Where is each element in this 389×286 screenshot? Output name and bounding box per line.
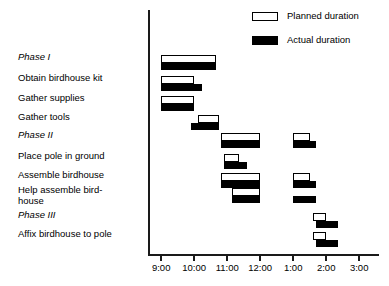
task-label-affix-birdhouse-to-pole: Affix birdhouse to pole [18,228,112,239]
x-tick-3-00 [358,255,360,261]
planned-bar-help-assemble-bird-house-0 [232,188,260,196]
actual-bar-obtain-birdhouse-kit-0 [161,84,202,91]
actual-duration-swatch [252,36,278,45]
x-tick-label-1-00: 1:00 [284,262,303,273]
y-axis-line [148,10,150,255]
x-tick-10-00 [193,255,195,261]
actual-bar-gather-tools-0 [191,123,219,130]
task-label-obtain-birdhouse-kit: Obtain birdhouse kit [18,72,103,83]
task-label-place-pole-in-ground: Place pole in ground [18,150,105,161]
actual-bar-affix-birdhouse-to-pole-0 [316,240,337,247]
task-label-gather-supplies: Gather supplies [18,92,85,103]
actual-bar-gather-supplies-0 [161,104,194,111]
planned-bar-place-pole-in-ground-0 [224,154,239,162]
x-tick-12-00 [259,255,261,261]
legend-label-actual: Actual duration [287,35,350,45]
planned-duration-swatch [252,12,278,21]
x-axis-line [148,254,379,256]
actual-bar-assemble-birdhouse-0 [221,181,261,188]
task-label-help-assemble-bird-house: Help assemble bird- house [18,184,102,206]
planned-bar-phase-ii-0 [221,133,261,141]
actual-bar-phase-ii-0 [221,141,261,148]
legend-label-planned: Planned duration [287,11,359,21]
planned-bar-phase-ii-1 [293,133,310,141]
x-tick-label-10-00: 10:00 [182,262,206,273]
x-tick-11-00 [226,255,228,261]
actual-bar-phase-iii-0 [316,221,337,228]
actual-bar-place-pole-in-ground-0 [224,162,247,169]
legend-item-actual: Actual duration [252,32,359,48]
x-tick-2-00 [325,255,327,261]
x-tick-label-3-00: 3:00 [350,262,369,273]
actual-bar-help-assemble-bird-house-1 [293,196,316,203]
gantt-chart: Planned duration Actual duration 9:0010:… [0,0,389,286]
planned-bar-affix-birdhouse-to-pole-0 [313,232,326,240]
x-tick-1-00 [292,255,294,261]
actual-bar-phase-ii-1 [293,141,316,148]
legend-item-planned: Planned duration [252,8,359,24]
planned-bar-phase-iii-0 [313,213,326,221]
planned-bar-gather-tools-0 [198,115,219,123]
chart-legend: Planned duration Actual duration [252,8,359,56]
task-label-gather-tools: Gather tools [18,111,70,122]
planned-bar-assemble-birdhouse-1 [293,173,310,181]
task-label-assemble-birdhouse: Assemble birdhouse [18,169,104,180]
planned-bar-assemble-birdhouse-0 [221,173,261,181]
planned-bar-phase-i-0 [161,55,215,63]
x-tick-label-2-00: 2:00 [317,262,336,273]
actual-bar-help-assemble-bird-house-0 [232,196,260,203]
planned-bar-gather-supplies-0 [161,96,194,104]
task-label-phase-ii: Phase II [18,129,53,140]
x-tick-label-11-00: 11:00 [216,262,239,273]
actual-bar-assemble-birdhouse-1 [293,181,316,188]
x-tick-label-9-00: 9:00 [152,262,171,273]
task-label-phase-iii: Phase III [18,209,56,220]
x-tick-9-00 [160,255,162,261]
x-tick-label-12-00: 12:00 [248,262,272,273]
actual-bar-phase-i-0 [161,63,215,70]
planned-bar-obtain-birdhouse-kit-0 [161,76,194,84]
task-label-phase-i: Phase I [18,51,50,62]
